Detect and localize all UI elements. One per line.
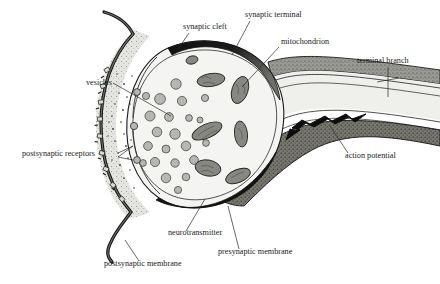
vesicle-docked — [134, 157, 141, 164]
vesicle — [182, 173, 190, 181]
postsynaptic-receptor — [98, 100, 104, 105]
synapse-diagram: synaptic cleft synaptic terminal mitocho… — [0, 0, 440, 284]
vesicle — [171, 159, 179, 167]
vesicle — [181, 141, 191, 151]
vesicle-docked — [134, 89, 141, 96]
label-synaptic-terminal: synaptic terminal — [245, 10, 302, 19]
vesicle — [152, 127, 162, 137]
vesicle — [144, 142, 153, 151]
postsynaptic-receptor — [99, 150, 105, 155]
vesicle — [203, 140, 210, 147]
label-action-potential: action potential — [345, 151, 396, 160]
label-neurotransmitter: neurotransmitter — [168, 228, 222, 237]
label-synaptic-cleft: synaptic cleft — [183, 22, 228, 31]
vesicle — [186, 115, 193, 122]
postsynaptic-receptor — [97, 134, 102, 139]
label-mitochondrion: mitochondrion — [281, 37, 329, 46]
label-postsynaptic-membrane: postsynaptic membrane — [104, 259, 182, 268]
vesicle — [150, 157, 159, 166]
vesicle — [161, 173, 171, 183]
vesicle — [142, 92, 149, 99]
leader-postsynaptic-membrane — [125, 240, 139, 261]
vesicle — [145, 111, 155, 121]
diagram-canvas: synaptic cleft synaptic terminal mitocho… — [0, 0, 440, 284]
vesicle — [162, 145, 170, 153]
vesicle — [177, 96, 186, 105]
label-vesicles: vesicles — [86, 78, 112, 87]
vesicle — [165, 113, 174, 122]
vesicle — [201, 94, 208, 101]
vesicle — [174, 186, 181, 193]
postsynaptic-receptor — [97, 117, 102, 121]
label-terminal-branch: terminal branch — [357, 56, 409, 65]
vesicle — [170, 129, 180, 139]
label-presynaptic-membrane: presynaptic membrane — [218, 247, 293, 256]
vesicle — [197, 117, 203, 123]
vesicle-docked — [130, 122, 137, 129]
label-postsynaptic-receptors: postsynaptic receptors — [22, 149, 95, 158]
vesicle — [155, 94, 166, 105]
leader-presynaptic-membrane — [228, 206, 239, 249]
vesicle — [171, 79, 181, 89]
